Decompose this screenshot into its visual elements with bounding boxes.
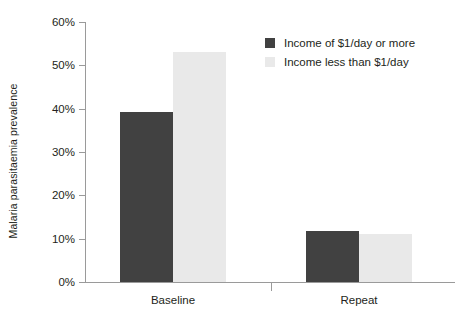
y-axis-tick [79,109,85,110]
y-axis-line [85,22,86,283]
bar [120,112,173,282]
y-axis-tick [79,65,85,66]
legend-swatch [265,38,275,48]
y-axis-tick-label: 60% [34,16,75,28]
y-axis-tick [79,282,85,283]
legend-label: Income of $1/day or more [284,37,415,49]
x-axis-label: Baseline [151,294,195,306]
x-axis-group-separator-tick [271,283,272,291]
legend: Income of $1/day or moreIncome less than… [265,33,415,71]
y-axis-tick-label: 30% [34,146,75,158]
bar-chart-figure: Malaria parasitaemia prevalence 0%10%20%… [0,0,458,322]
y-axis-title: Malaria parasitaemia prevalence [0,0,26,322]
legend-item: Income of $1/day or more [265,33,415,52]
bar [173,52,226,282]
legend-item: Income less than $1/day [265,52,415,71]
legend-label: Income less than $1/day [284,56,409,68]
y-axis-tick-label: 40% [34,103,75,115]
y-axis-tick-label: 10% [34,233,75,245]
y-axis-tick-label: 50% [34,59,75,71]
y-axis-tick-label: 20% [34,189,75,201]
y-axis-tick [79,195,85,196]
y-axis-tick [79,22,85,23]
y-axis-tick [79,152,85,153]
y-axis-tick-label: 0% [34,276,75,288]
legend-swatch [265,57,275,67]
bar [306,231,359,282]
x-axis-line [85,282,455,283]
y-axis-tick [79,239,85,240]
bar [359,234,412,282]
x-axis-label: Repeat [340,294,377,306]
